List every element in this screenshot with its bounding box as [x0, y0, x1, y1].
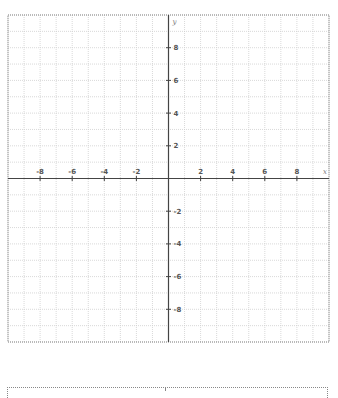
y-tick-label: -8	[174, 306, 182, 314]
x-tick-label: -6	[68, 168, 76, 176]
x-tick-label: 2	[198, 168, 203, 176]
y-tick-label: 4	[174, 110, 179, 118]
x-axis-label: x	[323, 168, 327, 176]
x-tick-label: 4	[230, 168, 235, 176]
y-tick-label: -6	[174, 273, 182, 281]
y-tick-label: 8	[174, 44, 179, 52]
x-tick-label: -2	[133, 168, 141, 176]
x-tick-label: 8	[294, 168, 299, 176]
x-tick-labels: -8-6-4-22468	[36, 168, 299, 176]
y-tick-label: 2	[174, 142, 179, 150]
y-axis-label: y	[172, 18, 178, 26]
y-tick-label: 6	[174, 77, 179, 85]
x-tick-label: 6	[262, 168, 267, 176]
x-tick-label: -8	[36, 168, 44, 176]
y-tick-label: -4	[174, 240, 182, 248]
second-grid-axis-tick	[165, 387, 166, 391]
second-grid-edge	[7, 387, 328, 398]
x-tick-label: -4	[100, 168, 108, 176]
y-tick-label: -2	[174, 208, 182, 216]
